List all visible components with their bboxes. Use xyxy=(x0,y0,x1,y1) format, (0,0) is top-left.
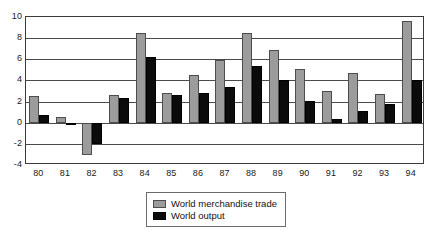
bar-world-merchandise-trade xyxy=(56,117,66,122)
plot-area xyxy=(25,16,424,164)
bar-group xyxy=(212,17,239,163)
y-tick-label: -4 xyxy=(0,160,22,169)
bar-world-merchandise-trade xyxy=(215,60,225,122)
y-tick-label: 4 xyxy=(0,75,22,84)
y-axis: 1086420-2-4 xyxy=(0,0,22,236)
bar-world-output xyxy=(225,87,235,123)
y-tick-label: 10 xyxy=(0,12,22,21)
bar-world-merchandise-trade xyxy=(136,33,146,123)
bar-group xyxy=(53,17,80,163)
y-tick-label: 8 xyxy=(0,33,22,42)
bar-group xyxy=(26,17,53,163)
y-tick-label: 6 xyxy=(0,54,22,63)
legend-label: World output xyxy=(171,211,225,221)
bar-world-output xyxy=(92,123,102,144)
y-tick-label: 2 xyxy=(0,96,22,105)
bar-group xyxy=(345,17,372,163)
bar-world-merchandise-trade xyxy=(295,69,305,123)
bar-group xyxy=(239,17,266,163)
bar-world-merchandise-trade xyxy=(269,50,279,123)
bar-world-merchandise-trade xyxy=(322,91,332,123)
legend-swatch-icon xyxy=(153,212,166,220)
legend-label: World merchandise trade xyxy=(171,199,277,209)
x-tick-label: 92 xyxy=(352,169,362,178)
bar-world-output xyxy=(252,66,262,123)
x-tick-label: 85 xyxy=(166,169,176,178)
bars-layer xyxy=(26,17,423,163)
bar-world-output xyxy=(332,119,342,123)
legend-item: World merchandise trade xyxy=(153,198,277,209)
bar-world-merchandise-trade xyxy=(348,73,358,123)
bar-group xyxy=(132,17,159,163)
bar-world-output xyxy=(412,80,422,122)
bar-group xyxy=(265,17,292,163)
x-tick-label: 94 xyxy=(406,169,416,178)
bar-world-merchandise-trade xyxy=(242,33,252,123)
x-tick-label: 84 xyxy=(140,169,150,178)
bar-group xyxy=(292,17,319,163)
bar-world-output xyxy=(66,123,76,125)
bar-world-output xyxy=(385,104,395,123)
bar-world-merchandise-trade xyxy=(82,123,92,156)
bar-world-output xyxy=(305,101,315,123)
bar-world-merchandise-trade xyxy=(109,95,119,122)
bar-world-output xyxy=(39,115,49,122)
x-tick-label: 93 xyxy=(379,169,389,178)
bar-world-output xyxy=(358,111,368,123)
bar-world-merchandise-trade xyxy=(375,94,385,123)
bar-group xyxy=(398,17,425,163)
x-tick-label: 89 xyxy=(273,169,283,178)
bar-group xyxy=(159,17,186,163)
x-tick-label: 80 xyxy=(33,169,43,178)
x-tick-label: 91 xyxy=(326,169,336,178)
bar-world-output xyxy=(146,57,156,123)
bar-group xyxy=(186,17,213,163)
bar-world-merchandise-trade xyxy=(402,21,412,123)
bar-group xyxy=(106,17,133,163)
bar-world-merchandise-trade xyxy=(29,96,39,122)
x-tick-label: 81 xyxy=(60,169,70,178)
bar-group xyxy=(319,17,346,163)
x-tick-label: 82 xyxy=(86,169,96,178)
bar-world-output xyxy=(279,80,289,122)
x-tick-label: 86 xyxy=(193,169,203,178)
bar-world-output xyxy=(172,95,182,123)
x-tick-label: 87 xyxy=(219,169,229,178)
x-tick-label: 90 xyxy=(299,169,309,178)
bar-group xyxy=(79,17,106,163)
bar-world-merchandise-trade xyxy=(162,93,172,123)
y-tick-label: 0 xyxy=(0,117,22,126)
x-tick-label: 88 xyxy=(246,169,256,178)
bar-world-merchandise-trade xyxy=(189,75,199,123)
bar-world-output xyxy=(199,93,209,123)
x-tick-label: 83 xyxy=(113,169,123,178)
chart-legend: World merchandise tradeWorld output xyxy=(146,192,286,227)
legend-swatch-icon xyxy=(153,200,166,208)
y-tick-label: -2 xyxy=(0,138,22,147)
bar-world-output xyxy=(119,98,129,122)
legend-item: World output xyxy=(153,210,277,221)
bar-group xyxy=(372,17,399,163)
bar-chart: 1086420-2-4 8081828384858687888990919293… xyxy=(0,0,433,236)
